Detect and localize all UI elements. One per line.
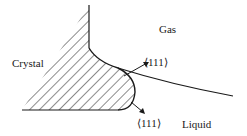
facet-label-lower: ⟨111⟩ (137, 118, 161, 129)
gas-label: Gas (159, 24, 176, 35)
facet-label-upper: ⟨111⟩ (144, 57, 168, 68)
crystal-label: Crystal (12, 58, 44, 69)
liquid-label: Liquid (182, 119, 211, 130)
